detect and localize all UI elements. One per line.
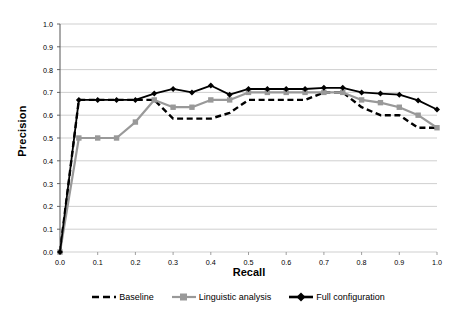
series-marker-linguistic-analysis xyxy=(189,105,194,110)
series-marker-full-configuration xyxy=(359,89,365,95)
y-tick-label: 0.7 xyxy=(43,88,53,97)
series-marker-linguistic-analysis xyxy=(208,97,213,102)
series-marker-linguistic-analysis xyxy=(114,135,119,140)
y-tick-label: 0.5 xyxy=(43,134,53,143)
series-marker-linguistic-analysis xyxy=(95,135,100,140)
series-marker-linguistic-analysis xyxy=(415,113,420,118)
series-marker-full-configuration xyxy=(434,107,440,113)
dashed-black-line-key xyxy=(91,292,117,302)
series-marker-full-configuration xyxy=(132,97,138,103)
series-marker-full-configuration xyxy=(114,97,120,103)
series-marker-full-configuration xyxy=(208,83,214,89)
y-tick-label: 0.1 xyxy=(43,225,53,234)
precision-recall-chart-figure: Precision 0.00.10.20.30.40.50.60.70.80.9… xyxy=(0,0,476,316)
series-marker-linguistic-analysis xyxy=(359,97,364,102)
series-marker-full-configuration xyxy=(151,91,157,97)
solid-gray-line-square-key xyxy=(171,292,197,302)
series-marker-linguistic-analysis xyxy=(378,100,383,105)
y-tick-label: 0.3 xyxy=(43,180,53,189)
y-tick-label: 0.8 xyxy=(43,66,53,75)
y-axis-title: Precision xyxy=(16,105,28,156)
y-tick-label: 1.0 xyxy=(43,20,53,29)
series-marker-full-configuration xyxy=(170,86,176,92)
legend-item-linguistic-analysis: Linguistic analysis xyxy=(171,292,272,302)
series-marker-linguistic-analysis xyxy=(133,119,138,124)
y-tick-label: 0.4 xyxy=(43,157,53,166)
chart-legend: Baseline Linguistic analysis Full config… xyxy=(0,292,476,302)
y-axis-title-container: Precision xyxy=(8,0,36,262)
series-marker-linguistic-analysis xyxy=(434,125,439,130)
series-marker-linguistic-analysis xyxy=(152,97,157,102)
chart-plot-area: 0.00.10.20.30.40.50.60.70.80.91.00.00.10… xyxy=(0,0,476,290)
series-marker-full-configuration xyxy=(189,89,195,95)
y-tick-label: 0.9 xyxy=(43,43,53,52)
series-line-baseline xyxy=(60,92,437,252)
legend-label-full-configuration: Full configuration xyxy=(316,292,385,302)
legend-item-baseline: Baseline xyxy=(91,292,154,302)
series-marker-full-configuration xyxy=(377,91,383,97)
series-marker-linguistic-analysis xyxy=(227,97,232,102)
y-tick-label: 0.0 xyxy=(43,248,53,257)
y-tick-label: 0.2 xyxy=(43,202,53,211)
series-marker-linguistic-analysis xyxy=(397,105,402,110)
legend-label-baseline: Baseline xyxy=(119,292,154,302)
series-line-full-configuration xyxy=(60,86,437,252)
series-marker-linguistic-analysis xyxy=(170,105,175,110)
series-marker-full-configuration xyxy=(95,97,101,103)
legend-item-full-configuration: Full configuration xyxy=(288,292,385,302)
series-marker-linguistic-analysis xyxy=(76,135,81,140)
legend-label-linguistic-analysis: Linguistic analysis xyxy=(199,292,272,302)
y-tick-label: 0.6 xyxy=(43,111,53,120)
series-marker-full-configuration xyxy=(76,97,82,103)
x-axis-title: Recall xyxy=(60,266,438,278)
series-marker-full-configuration xyxy=(415,97,421,103)
solid-black-line-diamond-key xyxy=(288,292,314,302)
